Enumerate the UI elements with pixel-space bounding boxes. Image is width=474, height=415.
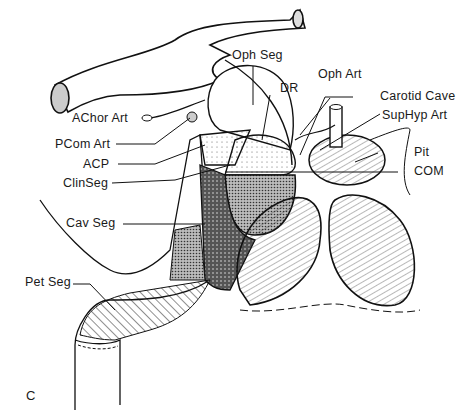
label-sup-hyp-art: SupHyp Art [382, 108, 447, 122]
panel-letter: C [26, 388, 36, 403]
label-acp: ACP [83, 157, 109, 171]
label-achor-art: AChor Art [72, 111, 128, 125]
label-pet-seg: Pet Seg [25, 275, 71, 289]
label-com: COM [414, 164, 444, 178]
label-cav-seg: Cav Seg [66, 216, 115, 230]
label-pit: Pit [414, 145, 429, 159]
petrous-segment [80, 280, 210, 340]
label-oph-art: Oph Art [318, 67, 362, 81]
pituitary-gland [309, 135, 385, 185]
label-pcom-art: PCom Art [55, 137, 110, 151]
anatomical-drawing [0, 0, 474, 415]
label-oph-seg: Oph Seg [232, 48, 283, 62]
label-carotid-cave: Carotid Cave [380, 89, 455, 103]
label-dr: DR [280, 81, 298, 95]
label-clin-seg: ClinSeg [63, 176, 108, 190]
